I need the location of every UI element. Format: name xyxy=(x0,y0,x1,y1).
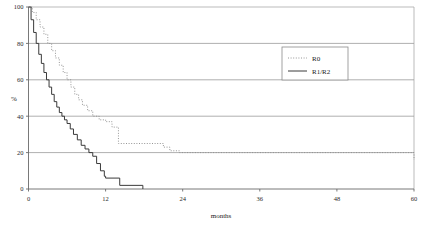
x-tick-label-12: 12 xyxy=(102,195,109,202)
y-tick-label-60: 60 xyxy=(17,76,24,83)
x-tick-label-60: 60 xyxy=(411,195,418,202)
x-tick-label-0: 0 xyxy=(27,195,30,202)
chart-background xyxy=(0,0,425,226)
x-tick-label-24: 24 xyxy=(179,195,186,202)
chart-figure: 020406080100 01224364860 % months R0R1/R… xyxy=(0,0,425,226)
y-axis-title: % xyxy=(11,95,17,103)
y-tick-label-100: 100 xyxy=(14,3,24,10)
chart-legend: R0R1/R2 xyxy=(282,47,348,80)
y-tick-label-40: 40 xyxy=(17,113,24,120)
survival-curve-chart: 020406080100 01224364860 % months R0R1/R… xyxy=(0,0,425,226)
y-tick-label-80: 80 xyxy=(17,40,24,47)
y-tick-label-0: 0 xyxy=(20,185,23,192)
legend-label-r1-r2: R1/R2 xyxy=(312,68,331,76)
y-tick-label-20: 20 xyxy=(17,149,24,156)
legend-label-r0: R0 xyxy=(312,55,321,63)
x-axis-title: months xyxy=(211,212,232,220)
x-tick-label-48: 48 xyxy=(334,195,341,202)
x-tick-label-36: 36 xyxy=(257,195,264,202)
